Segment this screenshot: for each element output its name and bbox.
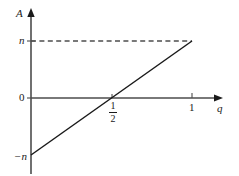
y-axis-arrowhead — [27, 8, 34, 17]
y-tick-label-zero: 0 — [19, 92, 25, 103]
x-axis-arrowhead — [214, 94, 223, 101]
fraction-numerator: 1 — [107, 101, 119, 111]
y-tick-label-negative-n: −n — [14, 151, 27, 162]
plot-canvas — [0, 0, 239, 176]
fraction-denominator: 2 — [107, 114, 119, 124]
x-tick-label-one-half: 1 2 — [107, 101, 119, 124]
chart-figure: A q n 0 −n 1 2 1 — [0, 0, 239, 176]
y-tick-label-n: n — [19, 35, 25, 46]
x-tick-label-one: 1 — [189, 102, 195, 113]
y-axis-label: A — [16, 8, 23, 19]
x-axis-label: q — [217, 103, 223, 114]
